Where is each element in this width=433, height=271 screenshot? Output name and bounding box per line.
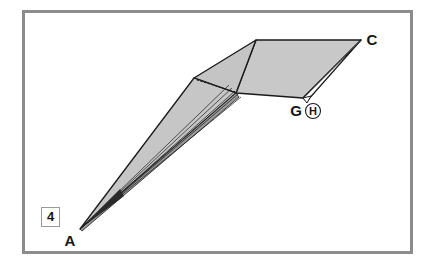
figure-number-box: 4 (42, 208, 60, 227)
callout-H-text: H (309, 105, 317, 117)
figure-container: A C G H 4 (0, 0, 433, 271)
folded-sheet-diagram: A C G H 4 (0, 0, 433, 271)
label-A: A (65, 232, 76, 249)
figure-number-text: 4 (47, 209, 55, 224)
callout-H: H (306, 104, 321, 119)
label-G: G (290, 102, 302, 119)
label-C: C (367, 31, 378, 48)
